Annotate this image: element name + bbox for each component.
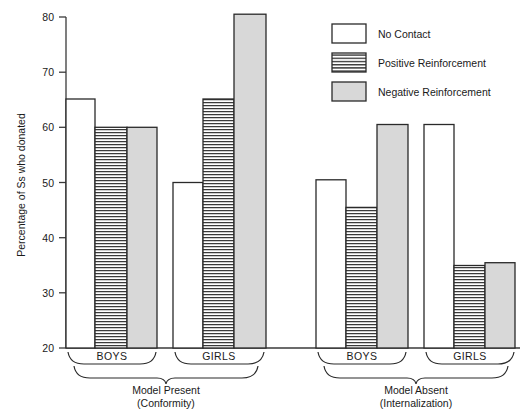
chart-canvas: 80 70 60 50 40 30 20 Percentage of Ss wh…: [0, 0, 528, 413]
legend-label-no-contact: No Contact: [378, 28, 431, 40]
panel-label-right-line1: Model Absent: [384, 384, 448, 396]
bar-right-girls-positive-reinforcement: [454, 266, 485, 349]
bar-right-boys-no-contact: [316, 180, 346, 348]
panel-label-right-line2: (Internalization): [380, 397, 452, 409]
legend-item-positive-reinforcement: Positive Reinforcement: [332, 53, 486, 72]
group-label-left-girls: GIRLS: [202, 350, 236, 362]
panel-model-absent: BOYS GIRLS Model Absent (Internalization…: [316, 125, 515, 410]
bar-left-girls-positive-reinforcement: [203, 99, 234, 348]
bar-right-boys-negative-reinforcement: [377, 125, 408, 349]
y-tick-label-30: 30: [42, 287, 54, 299]
bar-right-girls-no-contact: [424, 125, 454, 349]
bar-right-boys-positive-reinforcement: [346, 207, 377, 348]
chart-legend: No Contact Positive Reinforcement Negati…: [332, 24, 491, 101]
group-label-right-boys: BOYS: [347, 350, 378, 362]
y-tick-label-50: 50: [42, 177, 54, 189]
panel-label-left-line2: (Conformity): [137, 397, 195, 409]
brace-panel-right: [324, 366, 508, 384]
legend-swatch-negative-reinforcement: [332, 82, 366, 101]
legend-swatch-no-contact: [332, 24, 366, 43]
y-axis: 80 70 60 50 40 30 20 Percentage of Ss wh…: [15, 11, 66, 354]
bar-group-left-boys: [66, 99, 157, 348]
y-axis-title: Percentage of Ss who donated: [15, 113, 27, 257]
bar-chart-figure: 80 70 60 50 40 30 20 Percentage of Ss wh…: [0, 0, 528, 413]
bar-left-girls-negative-reinforcement: [234, 14, 266, 348]
y-tick-label-40: 40: [42, 232, 54, 244]
y-tick-label-70: 70: [42, 66, 54, 78]
legend-item-negative-reinforcement: Negative Reinforcement: [332, 82, 491, 101]
y-tick-label-80: 80: [42, 11, 54, 23]
group-label-left-boys: BOYS: [97, 350, 128, 362]
bar-left-boys-negative-reinforcement: [127, 127, 157, 348]
legend-swatch-positive-reinforcement: [332, 53, 366, 72]
brace-panel-left: [74, 366, 258, 384]
bar-left-boys-positive-reinforcement: [95, 127, 127, 348]
legend-label-positive-reinforcement: Positive Reinforcement: [378, 57, 486, 69]
bar-group-left-girls: [173, 14, 266, 348]
bar-group-right-boys: [316, 125, 408, 349]
panel-model-present: BOYS GIRLS Model Present (Conformity): [66, 14, 266, 409]
bar-left-girls-no-contact: [173, 183, 203, 349]
legend-item-no-contact: No Contact: [332, 24, 431, 43]
bar-group-right-girls: [424, 125, 515, 349]
group-label-right-girls: GIRLS: [453, 350, 487, 362]
panel-label-left-line1: Model Present: [132, 384, 200, 396]
legend-label-negative-reinforcement: Negative Reinforcement: [378, 86, 491, 98]
bar-right-girls-negative-reinforcement: [485, 263, 515, 348]
bar-left-boys-no-contact: [66, 99, 95, 348]
y-tick-label-20: 20: [42, 342, 54, 354]
y-tick-label-60: 60: [42, 121, 54, 133]
